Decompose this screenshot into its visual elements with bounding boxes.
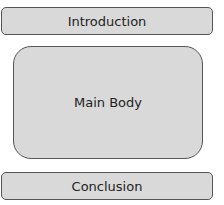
conclusion-box: Conclusion (1, 172, 213, 200)
conclusion-label: Conclusion (72, 179, 143, 194)
introduction-label: Introduction (68, 14, 147, 29)
main-body-label: Main Body (74, 95, 142, 110)
main-body-box: Main Body (13, 46, 203, 159)
introduction-box: Introduction (1, 7, 213, 35)
